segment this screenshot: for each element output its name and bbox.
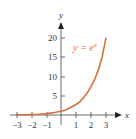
y-tick-label: 10 <box>48 72 58 82</box>
x-tick-label: 2 <box>89 120 94 130</box>
curve-label: y = ex <box>72 41 98 53</box>
x-tick-label: 1 <box>74 120 79 130</box>
x-tick-label: −2 <box>27 120 37 130</box>
y-ticks <box>61 38 65 96</box>
y-axis-label: y <box>58 10 63 20</box>
y-axis-arrow-icon <box>58 22 64 29</box>
x-axis-label: x <box>124 110 129 120</box>
x-tick-label: −1 <box>42 120 52 130</box>
x-tick-label: 3 <box>104 120 109 130</box>
x-axis-arrow-icon <box>115 112 122 118</box>
y-tick-label: 15 <box>48 52 58 62</box>
y-tick-label: 20 <box>48 33 58 43</box>
x-tick-label: −3 <box>12 120 22 130</box>
y-tick-label: 5 <box>53 91 58 101</box>
exponential-chart: −3 −2 −1 1 2 3 20 15 10 5 y x y = ex <box>0 0 136 139</box>
